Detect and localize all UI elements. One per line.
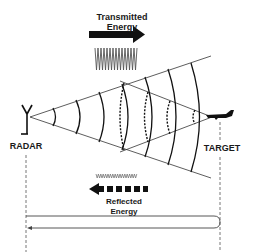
reflected-label-line1: Reflected bbox=[100, 197, 148, 207]
radar-antenna-icon bbox=[21, 105, 32, 134]
round-trip-path bbox=[26, 216, 220, 228]
reflected-label-line2: Energy bbox=[100, 207, 148, 217]
transmitted-energy-label: Transmitted Energy bbox=[92, 12, 152, 32]
round-trip-arrowhead-icon bbox=[27, 226, 32, 230]
reflected-arrow-icon bbox=[89, 183, 148, 195]
target-label: TARGET bbox=[198, 143, 246, 153]
target-aircraft-icon bbox=[206, 110, 234, 120]
transmitted-waveform-icon bbox=[95, 48, 137, 70]
transmitted-beam bbox=[30, 56, 211, 178]
transmitted-label-line2: Energy bbox=[92, 22, 152, 32]
reflected-wavefronts bbox=[120, 83, 195, 150]
radar-label: RADAR bbox=[6, 141, 46, 151]
reflected-energy-label: Reflected Energy bbox=[100, 197, 148, 217]
transmitted-label-line1: Transmitted bbox=[92, 12, 152, 22]
reflected-waveform-icon bbox=[96, 174, 137, 178]
transmitted-wavefronts bbox=[53, 63, 200, 172]
